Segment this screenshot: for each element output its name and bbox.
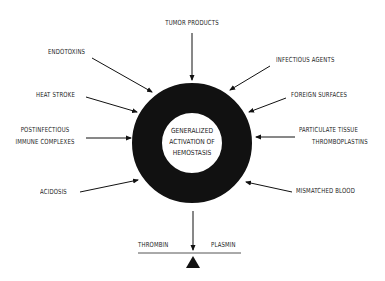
label-infectious-agents: INFECTIOUS AGENTS <box>276 55 335 66</box>
arrow-endotoxins <box>92 58 152 92</box>
label-foreign-surfaces: FOREIGN SURFACES <box>291 90 347 101</box>
center-label: GENERALIZED ACTIVATION OF HEMOSTASIS <box>158 126 226 159</box>
label-particulate-line1: PARTICULATE TISSUE <box>299 125 358 136</box>
label-mismatched-blood: MISMATCHED BLOOD <box>296 186 355 197</box>
label-postinfectious-line1: POSTINFECTIOUS <box>11 125 79 136</box>
center-line-2: ACTIVATION OF <box>158 137 226 148</box>
arrow-infectious-agents <box>230 66 270 90</box>
label-endotoxins: ENDOTOXINS <box>48 47 85 58</box>
label-acidosis: ACIDOSIS <box>40 187 67 198</box>
label-postinfectious-line2: IMMUNE COMPLEXES <box>11 137 79 148</box>
arrow-foreign-surfaces <box>249 98 286 112</box>
center-line-3: HEMOSTASIS <box>158 148 226 159</box>
label-thrombin: THROMBIN <box>138 240 168 251</box>
arrow-heat-stroke <box>86 97 137 112</box>
center-line-1: GENERALIZED <box>158 126 226 137</box>
label-particulate-line2: THROMBOPLASTINS <box>312 137 368 148</box>
balance-fulcrum <box>186 256 200 268</box>
label-tumor-products: TUMOR PRODUCTS <box>158 18 226 29</box>
label-heat-stroke: HEAT STROKE <box>36 90 75 101</box>
arrow-mismatched-blood <box>246 182 292 192</box>
arrow-acidosis <box>80 180 138 192</box>
label-plasmin: PLASMIN <box>211 240 236 251</box>
